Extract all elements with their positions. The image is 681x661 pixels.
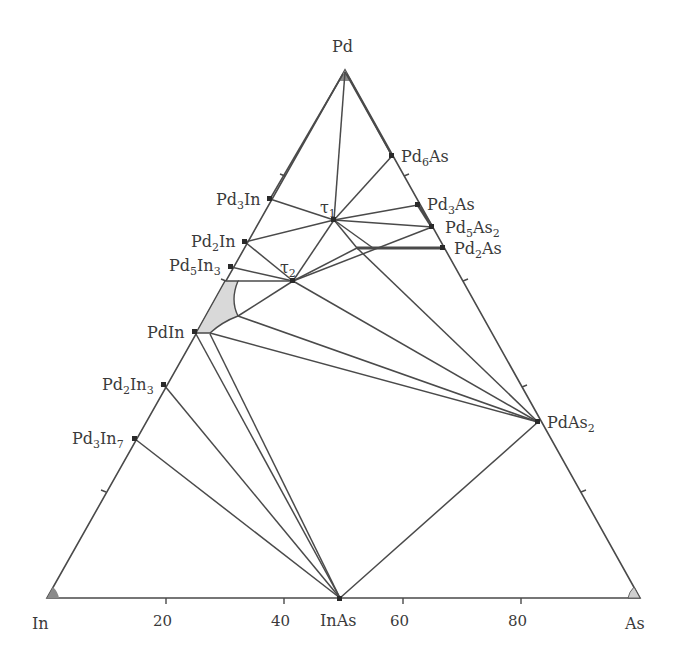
tick-label-80: 80 <box>508 612 527 630</box>
tick-label-60: 60 <box>390 612 409 630</box>
pd5in3-point <box>228 264 233 269</box>
pd2as-point <box>440 245 445 250</box>
phase-label-pd2in3: Pd2In3 <box>102 375 154 397</box>
tick-label-40: 40 <box>271 612 290 630</box>
pd5as2-point <box>429 224 434 229</box>
phase-label-pd5in3: Pd5In3 <box>169 256 221 278</box>
pd6as-point <box>389 153 394 158</box>
phase-label-pd3as: Pd3As <box>427 195 475 217</box>
pdas2-point <box>535 419 540 424</box>
phase-label-pd2as: Pd2As <box>454 239 502 261</box>
inas-point <box>337 596 342 601</box>
tick-label-20: 20 <box>153 612 172 630</box>
phase-label-pdin: PdIn <box>147 323 185 342</box>
shaded-region <box>196 281 238 333</box>
phase-label-tau2: τ2 <box>280 258 296 280</box>
pd2in-point <box>242 239 247 244</box>
vertex-label-in: In <box>32 614 49 633</box>
phase-label-pd3in: Pd3In <box>216 190 261 212</box>
ternary-diagram: Pd In As 20 40 60 80 InAs Pd6As Pd3As Pd… <box>0 0 681 661</box>
phase-label-inas: InAs <box>320 611 356 630</box>
phase-label-tau1: τ1 <box>320 198 336 220</box>
as-corner-mark <box>628 587 640 598</box>
phase-label-pd6as: Pd6As <box>401 147 449 169</box>
vertex-label-pd: Pd <box>332 37 353 56</box>
phase-label-pd3in7: Pd3In7 <box>72 429 124 451</box>
vertex-label-as: As <box>624 614 645 633</box>
pd3in7-point <box>132 436 137 441</box>
bottom-ticks <box>166 598 521 604</box>
in-corner-mark <box>47 587 59 598</box>
pd3as-point <box>415 202 420 207</box>
phase-label-pd2in: Pd2In <box>191 232 236 254</box>
outer-triangle <box>47 70 640 598</box>
pd3in-point <box>267 196 272 201</box>
phase-label-pd5as2: Pd5As2 <box>445 218 500 240</box>
phase-label-pdas2: PdAs2 <box>547 413 595 435</box>
pd2in3-point <box>161 382 166 387</box>
pdin-point <box>192 329 197 334</box>
right-ticks <box>404 174 586 492</box>
